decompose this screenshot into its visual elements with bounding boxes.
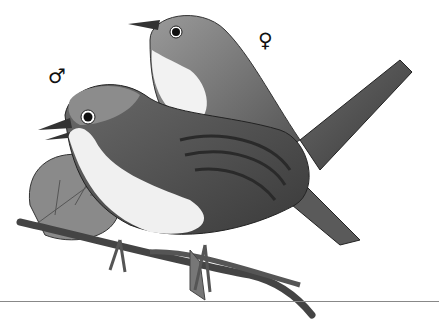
ground-line	[0, 301, 439, 302]
female-tail	[300, 60, 412, 170]
bird-illustration: ♂ ♀	[0, 0, 439, 328]
female-symbol-icon: ♀	[258, 30, 273, 50]
illustration-drawing	[0, 0, 439, 328]
male-symbol-icon: ♂	[48, 66, 66, 86]
